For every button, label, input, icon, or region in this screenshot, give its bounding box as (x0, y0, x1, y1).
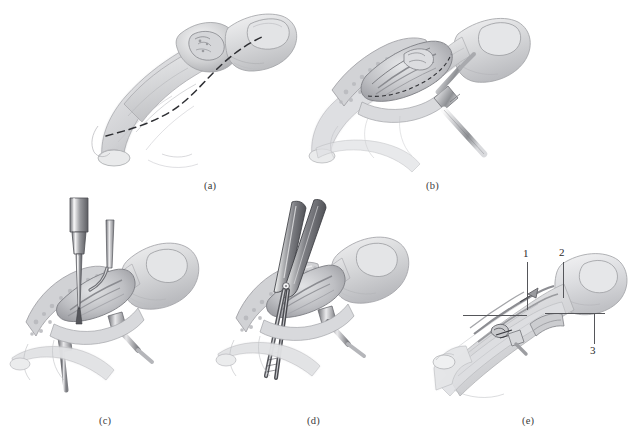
panel-b-illustration (308, 6, 538, 174)
panel-c (10, 198, 210, 398)
panel-b (308, 6, 538, 174)
leader-line-2 (563, 262, 564, 298)
panel-label-a: (a) (204, 180, 216, 191)
leader-line-1-horizontal (463, 315, 527, 316)
panel-label-b: (b) (426, 180, 439, 191)
panel-c-illustration (10, 198, 210, 398)
panel-d-illustration (218, 198, 418, 398)
callout-number-1: 1 (523, 247, 529, 259)
panel-e-illustration (434, 250, 634, 400)
panel-a (88, 8, 303, 173)
panel-a-illustration (88, 8, 303, 173)
panel-label-d: (d) (307, 415, 320, 426)
figure-container: (a) (0, 0, 638, 444)
panel-label-c: (c) (99, 415, 111, 426)
callout-number-2: 2 (559, 246, 565, 258)
figure-bottom-caption (0, 434, 638, 444)
panel-e (434, 250, 634, 400)
leader-line-3 (594, 313, 595, 344)
leader-line-1 (527, 262, 528, 310)
panel-label-e: (e) (522, 415, 534, 426)
callout-number-3: 3 (590, 344, 596, 356)
leader-line-3-horizontal (545, 313, 605, 314)
panel-d (218, 198, 418, 398)
skin-hook-lower-left (58, 336, 72, 390)
